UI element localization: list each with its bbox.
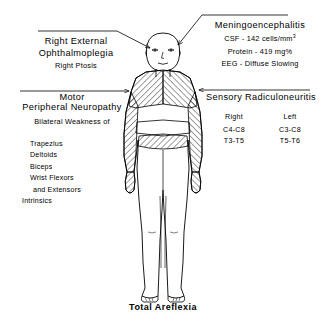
motor-title-line2: Peripheral Neuropathy <box>2 102 142 112</box>
eeg-finding: EEG - Diffuse Slowing <box>196 60 324 68</box>
diagram-caption: Total Areflexia <box>0 302 326 312</box>
table-header-row: Right Left <box>206 112 318 124</box>
list-item: Biceps <box>18 162 128 173</box>
ophthalmoplegia-title-line1: Right External <box>14 36 138 46</box>
muscle-weakness-list: Trapezius Deltoids Biceps Wrist Flexors … <box>18 139 128 208</box>
csf-finding-text: CSF - 142 cells/mm <box>224 35 293 44</box>
list-item: Intrinsics <box>18 196 128 207</box>
sensory-title: Sensory Radiculoneuritis <box>196 92 326 102</box>
body-figure <box>124 33 202 302</box>
column-header-left: Left <box>262 112 318 124</box>
list-item: and Extensors <box>18 185 128 196</box>
cell-left-thoracic: T5-T6 <box>262 135 318 146</box>
cell-right-thoracic: T3-T5 <box>206 135 262 146</box>
ophthalmoplegia-subtitle: Right Ptosis <box>14 62 138 70</box>
protein-finding: Protein - 419 mg% <box>196 48 324 56</box>
table-row: C4-C8 C3-C8 <box>206 124 318 135</box>
list-item: Wrist Flexors <box>18 173 128 184</box>
label-motor-neuropathy: Motor Peripheral Neuropathy Bilateral We… <box>2 92 142 126</box>
cell-left-cervical: C3-C8 <box>262 124 318 135</box>
label-meningoencephalitis: Meningoencephalitis CSF - 142 cells/mm3 … <box>196 20 324 69</box>
dermatome-table: Right Left C4-C8 C3-C8 T3-T5 T5-T6 <box>206 112 318 146</box>
label-sensory-radiculoneuritis: Sensory Radiculoneuritis <box>196 92 326 102</box>
list-item: Deltoids <box>18 150 128 161</box>
column-header-right: Right <box>206 112 262 124</box>
list-item: Trapezius <box>18 139 128 150</box>
table-row: T3-T5 T5-T6 <box>206 135 318 146</box>
ophthalmoplegia-title-line2: Ophthalmoplegia <box>14 48 138 58</box>
csf-finding: CSF - 142 cells/mm3 <box>196 34 324 44</box>
label-ophthalmoplegia: Right External Ophthalmoplegia Right Pto… <box>14 36 138 70</box>
meningoencephalitis-title: Meningoencephalitis <box>196 20 324 30</box>
csf-exponent: 3 <box>293 33 296 39</box>
waist-hatching <box>136 120 190 149</box>
motor-title-line1: Motor <box>2 92 142 102</box>
head <box>146 33 181 71</box>
motor-subtitle: Bilateral Weakness of <box>2 118 142 126</box>
cell-right-cervical: C4-C8 <box>206 124 262 135</box>
